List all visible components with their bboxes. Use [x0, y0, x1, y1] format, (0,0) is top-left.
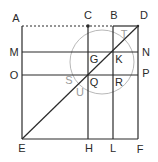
diagram-canvas [0, 0, 158, 162]
label-F: F [137, 144, 144, 155]
label-S: S [65, 75, 72, 86]
label-G: G [90, 54, 99, 65]
label-L: L [110, 143, 116, 154]
point-C-dot [86, 24, 90, 28]
label-C: C [84, 10, 92, 21]
label-B: B [110, 10, 117, 21]
label-A: A [12, 13, 19, 24]
label-U: U [76, 87, 84, 98]
label-K: K [115, 54, 122, 65]
point-D-dot [137, 25, 139, 27]
label-E: E [18, 143, 25, 154]
label-H: H [85, 143, 93, 154]
geometry-diagram: A C B D M O N P G K Q R T S U E H L F [0, 0, 158, 162]
label-M: M [9, 47, 18, 58]
label-T: T [121, 29, 128, 40]
label-N: N [142, 47, 150, 58]
label-R: R [115, 77, 123, 88]
label-Q: Q [90, 77, 99, 88]
label-O: O [10, 70, 19, 81]
label-D: D [140, 10, 148, 21]
label-P: P [142, 68, 149, 79]
